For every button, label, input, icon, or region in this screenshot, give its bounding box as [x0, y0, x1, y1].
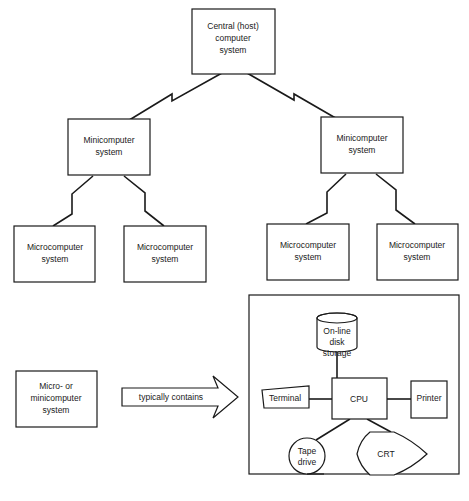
micro-3-line-2: system	[295, 252, 322, 262]
link-mini-right-to-micro-4	[376, 174, 415, 224]
legend-system-line-2: minicomputer	[30, 393, 81, 403]
tape-label-line-2: drive	[298, 457, 317, 467]
host-label-line-3: system	[220, 45, 247, 55]
mini-left-line-2: system	[96, 147, 123, 157]
micro-1-line-1: Microcomputer	[27, 242, 83, 252]
micro-2-line-2: system	[152, 254, 179, 264]
micro-4-line-1: Microcomputer	[389, 240, 445, 250]
legend-system-line-3: system	[43, 405, 70, 415]
tape-label-line-1: Tape	[298, 446, 317, 456]
distributed-system-diagram: Central (host) computer system Minicompu…	[0, 0, 469, 501]
host-label-line-1: Central (host)	[207, 21, 259, 31]
cpu-label: CPU	[350, 394, 368, 404]
mini-left-line-1: Minicomputer	[83, 135, 134, 145]
disk-label-line-3: storage	[323, 348, 352, 358]
micro-2-line-1: Microcomputer	[137, 242, 193, 252]
disk-label-line-1: On-line	[323, 326, 351, 336]
microcomputer-node-3: Microcomputer system	[267, 224, 349, 280]
link-mini-left-to-micro-2	[124, 176, 164, 226]
printer-node: Printer	[411, 381, 447, 418]
micro-4-line-2: system	[404, 252, 431, 262]
microcomputer-node-4: Microcomputer system	[377, 224, 458, 280]
mini-right-line-1: Minicomputer	[336, 133, 387, 143]
tape-drive-node: Tape drive	[289, 438, 325, 474]
disk-storage-icon: On-line disk storage	[317, 313, 357, 358]
mini-right-line-2: system	[349, 145, 376, 155]
components-panel: On-line disk storage CPU Terminal Printe…	[249, 295, 459, 475]
host-label-line-2: computer	[215, 33, 251, 43]
crt-label: CRT	[377, 449, 394, 459]
microcomputer-node-1: Microcomputer system	[14, 226, 95, 282]
arrow-label: typically contains	[139, 392, 203, 402]
link-mini-right-to-micro-3	[306, 174, 346, 224]
terminal-label: Terminal	[269, 393, 301, 403]
legend-system-line-1: Micro- or	[39, 381, 73, 391]
tape-reel-icon	[289, 438, 325, 474]
link-mini-left-to-micro-1	[53, 176, 93, 226]
minicomputer-node-left: Minicomputer system	[68, 119, 150, 175]
cpu-node: CPU	[332, 378, 387, 419]
minicomputer-node-right: Minicomputer system	[321, 117, 403, 173]
typically-contains-arrow: typically contains	[122, 376, 238, 418]
terminal-node: Terminal	[262, 386, 309, 408]
host-computer-node: Central (host) computer system	[192, 9, 275, 74]
disk-label-line-2: disk	[329, 337, 345, 347]
printer-label: Printer	[416, 393, 441, 403]
micro-3-line-1: Microcomputer	[280, 240, 336, 250]
legend-system-node: Micro- or minicomputer system	[16, 371, 97, 427]
micro-1-line-2: system	[42, 254, 69, 264]
microcomputer-node-2: Microcomputer system	[124, 226, 206, 282]
